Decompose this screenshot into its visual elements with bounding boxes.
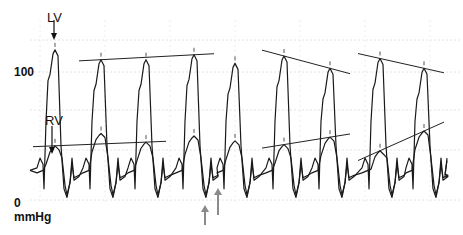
trend-line — [33, 141, 166, 146]
up-arrow-head — [201, 205, 209, 212]
pressure-tracing-chart — [0, 0, 463, 235]
up-arrow-head — [214, 188, 222, 195]
lv-label: LV — [47, 12, 62, 24]
annotation-arrows — [49, 20, 222, 225]
trend-line — [262, 134, 350, 148]
y-tick-label-100: 100 — [14, 66, 34, 78]
trend-line — [358, 54, 444, 73]
y-tick-label-0: 0 — [14, 197, 21, 209]
y-unit-label: mmHg — [14, 211, 51, 223]
lv-arrow-head — [51, 33, 57, 40]
rv-label: RV — [45, 115, 63, 127]
trend-line — [262, 50, 350, 74]
